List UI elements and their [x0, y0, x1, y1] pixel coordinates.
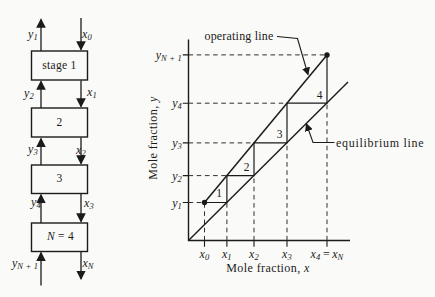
liquid-label-x1: x1	[87, 86, 97, 98]
x-tick-label-x3: x3	[282, 248, 292, 260]
step-number-1: 1	[216, 188, 222, 200]
xy-plot	[183, 37, 350, 247]
vapor-label-y1: y1	[28, 28, 38, 40]
x-axis-title: Mole fraction, x	[226, 262, 309, 274]
operating-line-callout-arrow	[277, 37, 308, 75]
step-number-4: 4	[317, 90, 323, 102]
liquid-label-x0: x0	[82, 28, 92, 40]
operating-line-label: operating line	[204, 30, 273, 42]
stage-box-label-4: N = 4	[47, 231, 74, 243]
operating-line-endpoint-dot-top	[324, 52, 329, 57]
y-tick-label-y4: y4	[172, 97, 182, 109]
y-tick-label-yN1: yN + 1	[156, 49, 182, 61]
x-tick-label-x1: x1	[222, 248, 232, 260]
vapor-label-yN1: yN + 1	[12, 257, 38, 269]
y-tick-label-y3: y3	[172, 137, 182, 149]
y-axis-title: Mole fraction, y	[147, 96, 159, 179]
equilibrium-line-label: equilibrium line	[336, 137, 424, 149]
vapor-label-y4: y4	[31, 196, 41, 208]
plot-axes	[189, 40, 351, 241]
liquid-label-x3: x3	[84, 197, 94, 209]
equilibrium-line-callout-arrow	[307, 124, 335, 143]
step-number-2: 2	[244, 162, 250, 174]
y-tick-label-y2: y2	[172, 170, 182, 182]
equilibrium-line	[189, 82, 349, 241]
x-tick-label-x2: x2	[249, 248, 259, 260]
y-tick-label-y1: y1	[172, 197, 182, 209]
dashed-guide-lines	[189, 55, 328, 241]
operating-line-endpoint-dot-bottom	[202, 200, 207, 205]
stage-box-label-3: 3	[56, 173, 62, 185]
vapor-label-y2: y2	[24, 87, 34, 99]
stage-box-label-1: stage 1	[42, 60, 76, 72]
stage-box-label-2: 2	[56, 117, 62, 129]
x-tick-label-x0: x0	[200, 248, 210, 260]
x-tick-label-x4-xN: x4=xN	[311, 248, 344, 260]
liquid-label-xN: xN	[82, 257, 93, 269]
axis-tick-marks	[183, 55, 327, 247]
vapor-label-y3: y3	[28, 143, 38, 155]
step-number-3: 3	[277, 129, 283, 141]
figure-stagewise-absorption: y1 x0 y2 x1 y3 x2 y4 x3 yN + 1 xN stage …	[0, 0, 435, 297]
liquid-label-x2: x2	[76, 144, 86, 156]
